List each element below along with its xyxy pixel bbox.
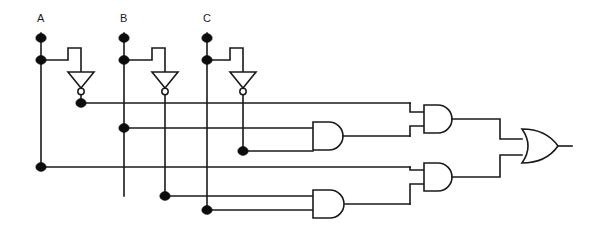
inverter-c-bubble	[240, 88, 246, 94]
junction-dot	[160, 192, 170, 201]
junction-dot	[36, 56, 46, 65]
junction-dot	[36, 163, 46, 172]
input-label-b: B	[120, 12, 128, 24]
input-rail-c	[207, 33, 313, 210]
input-label-c: C	[203, 12, 211, 24]
junction-dot	[202, 206, 212, 215]
junction-dot	[202, 34, 212, 43]
stage2-routing-top	[410, 103, 424, 136]
junction-dot	[36, 34, 46, 43]
junction-dot	[238, 147, 248, 156]
junction-dot	[119, 34, 129, 43]
inverter-c	[230, 72, 313, 151]
and-gate-2	[424, 105, 522, 139]
junction-dot	[119, 56, 129, 65]
junction-dot	[76, 99, 86, 108]
inverter-b-bubble	[162, 88, 168, 94]
and-gate-4	[424, 155, 522, 191]
input-rail-a	[41, 33, 410, 167]
circuit-canvas: A B C	[0, 0, 595, 227]
input-rail-b	[124, 33, 313, 196]
logic-circuit-diagram: A B C	[0, 0, 595, 227]
junction-dot	[119, 124, 129, 133]
and-gate-3	[313, 190, 410, 218]
input-label-a: A	[37, 12, 45, 24]
and-gate-1	[313, 122, 410, 150]
stage2-routing-bottom	[410, 167, 424, 204]
junction-dot	[202, 56, 212, 65]
inverter-b	[152, 72, 313, 196]
inverter-a-bubble	[78, 88, 84, 94]
or-gate-1	[522, 129, 572, 163]
